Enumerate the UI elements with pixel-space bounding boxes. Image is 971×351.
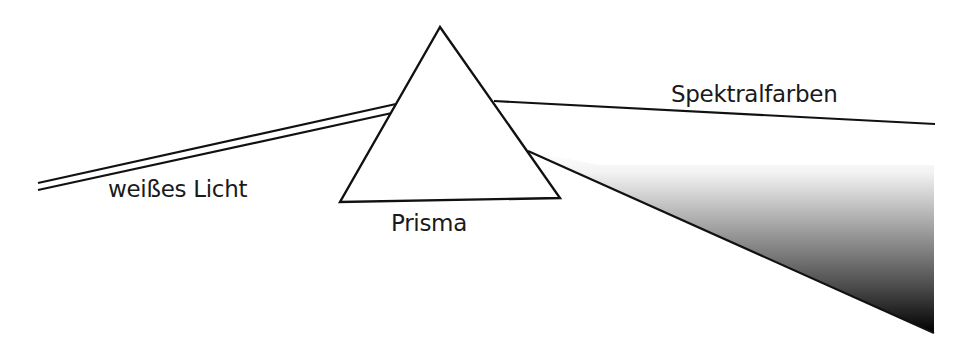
prism-label: Prisma [391,212,467,235]
prism-triangle [340,27,560,202]
white-light-label: weißes Licht [108,178,247,201]
spectral-colors-label: Spektralfarben [671,83,837,106]
prism-diagram: weißes Licht Prisma Spektralfarben [0,0,971,351]
